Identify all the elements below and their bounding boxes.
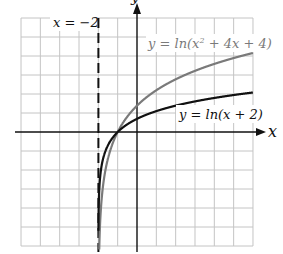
y-axis-label: y — [130, 0, 140, 5]
curve-black-label: y = ln(x + 2) — [178, 107, 263, 122]
asymptote-label: x = −2 — [53, 15, 99, 30]
curve-gray-label: y = ln(x2 + 4x + 4) — [147, 36, 272, 51]
x-axis-arrow-icon — [256, 128, 266, 136]
graph: x = −2 y = ln(x2 + 4x + 4) y = ln(x + 2)… — [0, 0, 283, 254]
x-axis-label: x — [268, 122, 277, 141]
